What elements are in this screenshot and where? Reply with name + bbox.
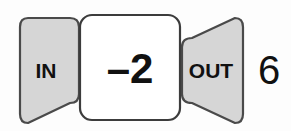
function-machine-diagram: IN OUT –2 6 <box>0 0 291 131</box>
input-block-label: IN <box>36 59 57 82</box>
rule-block: –2 <box>80 15 180 120</box>
output-block-label: OUT <box>189 59 234 82</box>
input-block: IN <box>20 18 79 123</box>
result-value: 6 <box>258 48 280 92</box>
diagram-canvas: IN OUT –2 6 <box>0 0 291 131</box>
output-block: OUT <box>182 18 243 123</box>
rule-block-label: –2 <box>107 45 154 92</box>
